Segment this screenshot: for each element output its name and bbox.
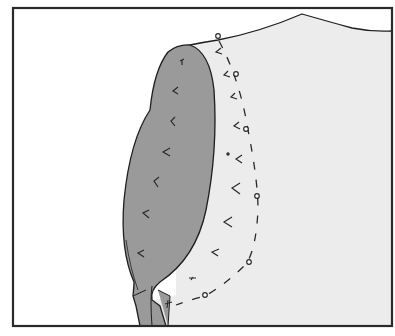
pin-head-icon	[244, 127, 249, 132]
pin-head-icon	[247, 260, 252, 265]
sewing-illustration	[0, 0, 395, 336]
illustration-canvas	[0, 0, 395, 336]
pin-head-icon	[234, 72, 239, 77]
dot-marker-icon	[227, 153, 229, 155]
pin-head-icon	[216, 34, 221, 39]
pin-head-icon	[203, 293, 208, 298]
pin-head-icon	[255, 194, 260, 199]
